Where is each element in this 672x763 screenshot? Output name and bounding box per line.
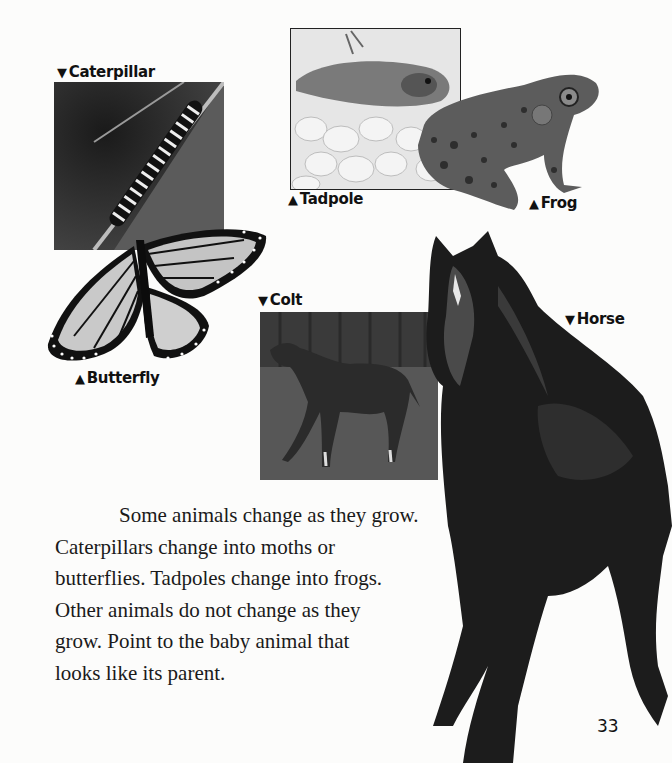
book-page: ▼ Caterpillar [0,0,672,763]
body-line: looks like its parent. [55,658,459,690]
down-triangle-icon: ▼ [57,66,67,79]
butterfly-label: ▲ Butterfly [75,369,159,387]
caterpillar-label: ▼ Caterpillar [57,63,155,81]
butterfly-label-text: Butterfly [87,369,160,387]
up-triangle-icon: ▲ [529,197,539,210]
caterpillar-label-text: Caterpillar [69,63,155,81]
butterfly-photo [44,226,268,372]
body-line: Some animals change as they grow. [79,500,459,532]
colt-label: ▼ Colt [258,291,302,309]
frog-label: ▲ Frog [529,194,577,212]
down-triangle-icon: ▼ [258,294,268,307]
up-triangle-icon: ▲ [288,193,298,206]
caterpillar-photo [54,82,224,250]
page-number: 33 [597,716,619,736]
body-paragraph: Some animals change as they grow. Caterp… [79,500,459,689]
frog-photo [414,65,602,213]
up-triangle-icon: ▲ [75,372,85,385]
body-line: butterflies. Tadpoles change into frogs. [55,563,459,595]
body-line: Other animals do not change as they [55,595,459,627]
body-line: grow. Point to the baby animal that [55,626,459,658]
tadpole-label-text: Tadpole [300,190,363,208]
tadpole-label: ▲ Tadpole [288,190,363,208]
frog-label-text: Frog [541,194,578,212]
body-line: Caterpillars change into moths or [55,532,459,564]
colt-photo [260,312,438,480]
colt-label-text: Colt [270,291,302,309]
